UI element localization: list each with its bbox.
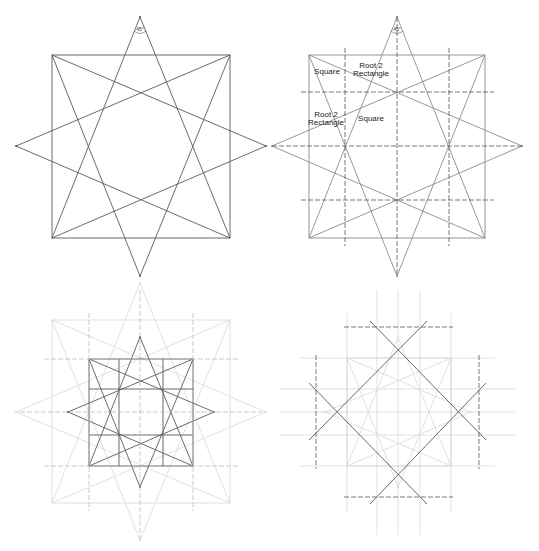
- vertex-dot: [265, 411, 267, 413]
- vertex-dot: [15, 411, 17, 413]
- star-ray: [140, 55, 230, 276]
- star-ray: [140, 283, 230, 503]
- panel-3: [15, 282, 267, 541]
- vertex-dot: [15, 145, 17, 147]
- region-label-line: Square: [314, 67, 340, 76]
- star-construction-figure: 45° 45°SquareRoot 2RectangleRoot 2Rectan…: [0, 0, 539, 551]
- star-ray: [397, 17, 485, 238]
- star-ray: [347, 412, 471, 466]
- diagonal-line: [309, 383, 427, 504]
- star-dark: [15, 16, 267, 277]
- star-ray: [16, 412, 230, 503]
- region-label: Square: [358, 114, 384, 123]
- star-ray: [347, 358, 398, 487]
- vertex-dot: [265, 145, 267, 147]
- vertex-dot: [396, 275, 398, 277]
- star-faint: [15, 282, 267, 541]
- region-label-line: Rectangle: [353, 69, 390, 78]
- star-ray: [52, 412, 266, 503]
- panel-1: 45°: [15, 16, 267, 277]
- star-ray: [89, 359, 140, 487]
- star-ray: [52, 17, 140, 238]
- vertex-dot: [139, 16, 141, 18]
- vertex-dot: [139, 275, 141, 277]
- star-ray: [347, 337, 398, 466]
- star-ray: [89, 359, 214, 412]
- region-label-line: Rectangle: [308, 118, 345, 127]
- angle-label: 45°: [393, 26, 401, 32]
- star-ray: [52, 283, 140, 503]
- square-outline: [52, 55, 230, 238]
- star-ray: [397, 55, 485, 276]
- vertex-dot: [139, 282, 141, 284]
- vertex-dot: [397, 336, 399, 338]
- star-ray: [309, 17, 397, 238]
- star-ray: [309, 55, 522, 146]
- region-label-line: Square: [358, 114, 384, 123]
- star-ray: [309, 55, 397, 276]
- star-ray: [52, 320, 266, 412]
- panel-4: [280, 290, 515, 535]
- vertex-dot: [324, 411, 326, 413]
- star-ray: [89, 412, 214, 466]
- star-ray: [347, 358, 471, 412]
- star-ray: [16, 55, 230, 146]
- square-outline: [52, 320, 230, 503]
- star-ray: [272, 146, 485, 238]
- vertex-dot: [397, 486, 399, 488]
- vertex-dot: [470, 411, 472, 413]
- region-label: Root 2Rectangle: [308, 110, 345, 127]
- star-ray: [309, 146, 522, 238]
- panel-2: 45°SquareRoot 2RectangleRoot 2RectangleS…: [271, 16, 523, 277]
- region-label: Square: [314, 67, 340, 76]
- star-ray: [89, 337, 140, 466]
- diagonal-line: [370, 383, 486, 504]
- region-label: Root 2Rectangle: [353, 61, 390, 78]
- angle-label: 45°: [136, 26, 144, 32]
- diagonal-line: [370, 321, 486, 440]
- star-ray: [52, 55, 140, 276]
- vertex-dot: [67, 411, 69, 413]
- star-ray: [52, 320, 140, 540]
- star-ray: [52, 55, 266, 146]
- star-ray: [52, 146, 266, 238]
- diagonal-line: [309, 321, 427, 440]
